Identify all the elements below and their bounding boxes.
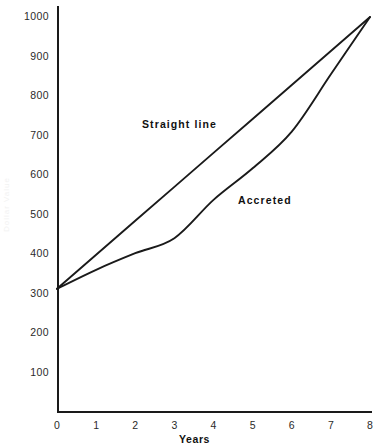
series-label-straight-line: Straight line [142, 118, 217, 130]
series-label-accreted: Accreted [238, 194, 292, 206]
plot-area [0, 0, 389, 446]
chart-canvas: Dollar Value 100200300400500600700800900… [0, 0, 389, 446]
series-line-straight-line [57, 17, 370, 289]
